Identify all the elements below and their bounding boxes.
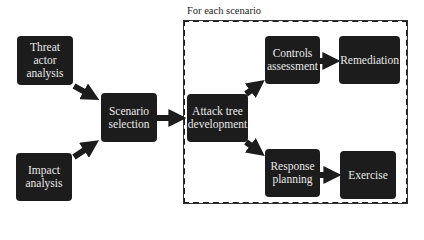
node-scenario-selection: Scenario selection: [101, 93, 157, 142]
node-remediation: Remediation: [339, 36, 400, 84]
arrow-impact-to-scenario: [74, 145, 92, 157]
arrow-threat-to-scenario: [74, 86, 92, 96]
node-exercise: Exercise: [340, 151, 396, 199]
node-threat-actor-analysis: Threat actor analysis: [17, 36, 73, 85]
node-impact-analysis: Impact analysis: [16, 153, 72, 201]
arrow-attack-to-controls: [246, 85, 258, 94]
arrow-attack-to-response: [246, 142, 258, 151]
node-attack-tree-development: Attack tree development: [187, 94, 248, 142]
node-controls-assessment: Controls assessment: [265, 36, 320, 84]
node-response-planning: Response planning: [265, 149, 320, 197]
